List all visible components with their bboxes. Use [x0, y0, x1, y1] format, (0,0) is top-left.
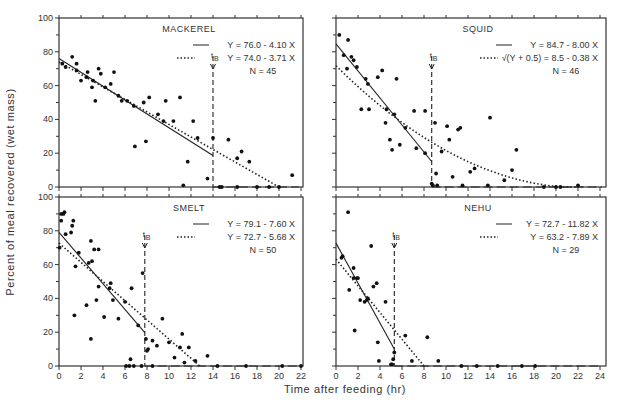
data-point — [423, 109, 427, 113]
data-point — [520, 364, 524, 368]
legend-equation-solid: Y = 76.0 - 4.10 X — [227, 40, 295, 50]
data-point — [390, 362, 394, 366]
x-tick-label: 20 — [551, 371, 561, 381]
tb-label-sub: B — [214, 55, 219, 62]
data-point — [129, 357, 133, 361]
data-point — [372, 285, 376, 289]
data-point — [352, 266, 356, 270]
data-point — [345, 67, 349, 71]
data-point — [576, 183, 580, 187]
data-point — [410, 359, 414, 363]
data-point — [91, 79, 95, 83]
data-point — [164, 99, 168, 103]
data-point — [155, 344, 159, 348]
data-point — [341, 254, 345, 258]
data-point — [181, 183, 185, 187]
legend-n-count: N = 29 — [553, 245, 580, 255]
data-point — [187, 346, 191, 350]
data-point — [267, 185, 271, 189]
data-point — [392, 351, 396, 355]
panel-nehu: 024681012141618202224tBNEHUY = 72.7 - 11… — [332, 194, 606, 381]
tb-label-sub: B — [395, 234, 400, 241]
data-point — [352, 58, 356, 62]
x-axis-label: Time after feeding (hr) — [284, 383, 406, 395]
data-point — [60, 62, 64, 66]
data-point — [391, 357, 395, 361]
data-point — [220, 185, 224, 189]
data-point — [191, 119, 195, 123]
legend-equation-dotted: Y = 72.7 - 5.68 X — [227, 232, 295, 242]
tb-label-sub: B — [433, 55, 438, 62]
x-tick-label: 8 — [144, 371, 149, 381]
panel-title: MACKEREL — [162, 24, 216, 34]
data-point — [350, 55, 354, 59]
data-point — [366, 297, 370, 301]
data-point — [475, 364, 479, 368]
legend-equation-dotted: Y = 63.2 - 7.89 X — [530, 232, 598, 242]
data-point — [133, 145, 137, 149]
x-tick-label: 14 — [485, 371, 495, 381]
regression-line-dotted — [336, 259, 424, 366]
data-point — [156, 112, 160, 116]
data-point — [85, 303, 89, 307]
x-tick-label: 18 — [529, 371, 539, 381]
data-point — [240, 150, 244, 154]
data-point — [414, 146, 418, 150]
x-tick-label: 12 — [463, 371, 473, 381]
x-tick-label: 0 — [333, 371, 338, 381]
data-point — [89, 239, 93, 243]
regression-line-solid — [336, 44, 432, 162]
data-point — [376, 340, 380, 344]
data-point — [99, 72, 103, 76]
data-point — [403, 334, 407, 338]
data-point — [280, 364, 284, 368]
data-point — [70, 55, 74, 59]
x-tick-label: 12 — [186, 371, 196, 381]
data-point — [132, 364, 136, 368]
data-point — [93, 99, 97, 103]
data-point — [434, 172, 438, 176]
data-point — [502, 178, 506, 182]
data-point — [342, 53, 346, 57]
data-point — [90, 259, 94, 263]
regression-line-solid — [336, 243, 394, 349]
data-point — [367, 107, 371, 111]
data-point — [377, 359, 381, 363]
data-point — [161, 317, 165, 321]
tb-label-sub: B — [146, 234, 151, 241]
data-point — [211, 136, 215, 140]
data-point — [64, 232, 68, 236]
data-point — [235, 185, 239, 189]
data-point — [353, 329, 357, 333]
panel-squid: tBSQUIDY = 84.7 - 8.00 X√(Y + 0.5) = 8.5… — [332, 15, 606, 191]
data-point — [433, 121, 437, 125]
data-point — [144, 337, 148, 341]
data-point — [554, 185, 558, 189]
x-tick-label: 16 — [507, 371, 517, 381]
data-point — [235, 156, 239, 160]
data-point — [73, 313, 77, 317]
data-point — [86, 70, 90, 74]
data-point — [112, 70, 116, 74]
data-point — [120, 99, 124, 103]
panel-smelt: 0204060801000246810121416182022tBSMELTY … — [38, 192, 306, 381]
data-point — [244, 364, 248, 368]
data-point — [290, 173, 294, 177]
data-point — [392, 112, 396, 116]
data-point — [125, 99, 129, 103]
data-point — [366, 82, 370, 86]
x-tick-label: 22 — [573, 371, 583, 381]
legend-equation-solid: Y = 79.1 - 7.60 X — [227, 219, 295, 229]
data-point — [194, 359, 198, 363]
data-point — [447, 138, 451, 142]
data-point — [102, 315, 106, 319]
data-point — [59, 219, 63, 223]
data-point — [85, 75, 89, 79]
x-tick-label: 4 — [377, 371, 382, 381]
data-point — [206, 177, 210, 181]
x-tick-label: 14 — [208, 371, 218, 381]
data-point — [130, 286, 134, 290]
data-point — [355, 65, 359, 69]
y-tick-label: 60 — [43, 260, 53, 270]
data-point — [451, 175, 455, 179]
